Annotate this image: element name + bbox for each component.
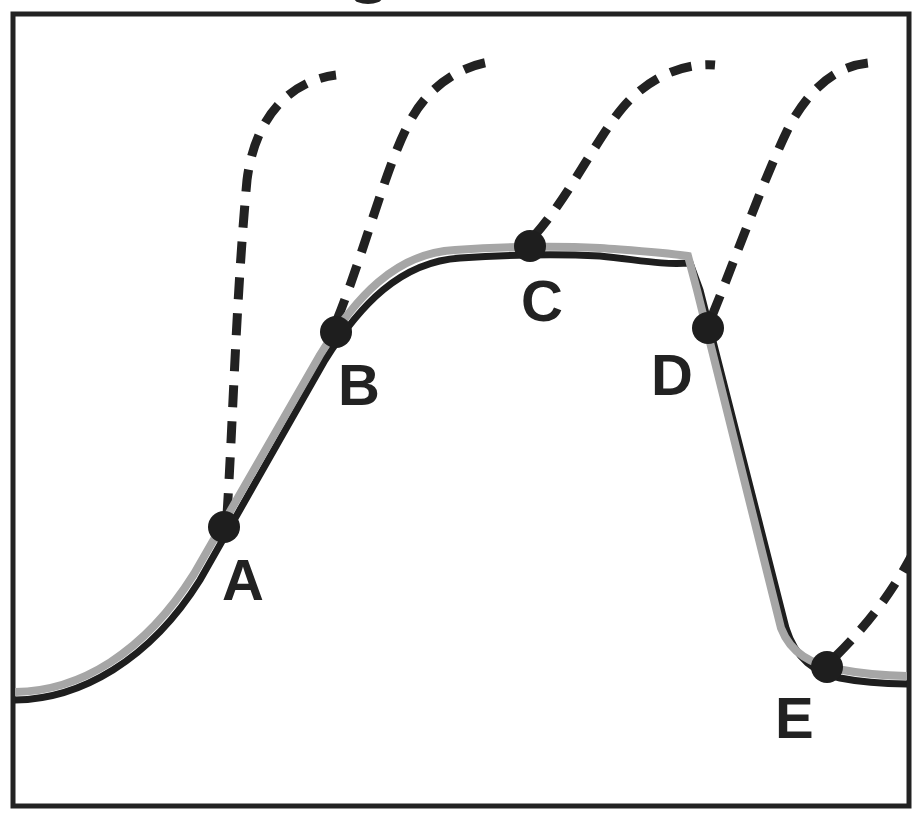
dashed-branch-from-B: [337, 61, 497, 320]
label-E: E: [775, 685, 814, 750]
label-D: D: [651, 342, 693, 407]
label-B: B: [338, 352, 380, 417]
dashed-branch-from-D: [712, 63, 868, 316]
point-E: [811, 651, 843, 683]
dashed-branch-from-E: [836, 555, 912, 656]
label-C: C: [521, 268, 563, 333]
point-A: [208, 511, 240, 543]
point-C: [514, 230, 546, 262]
cropped-title-fragment: [354, 0, 382, 4]
dashed-branch-from-C: [534, 65, 715, 236]
point-B: [320, 316, 352, 348]
label-A: A: [222, 547, 264, 612]
point-D: [692, 312, 724, 344]
dashed-branch-from-A: [227, 75, 336, 515]
main-curve-highlight: [13, 247, 912, 692]
diagram-canvas: A B C D E: [0, 0, 920, 816]
